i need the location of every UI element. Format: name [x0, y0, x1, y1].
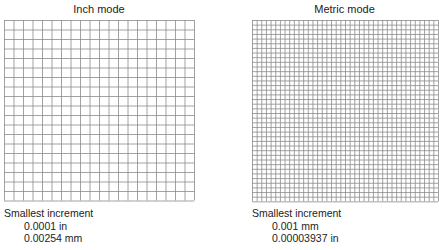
inch-mode-title: Inch mode	[4, 3, 194, 15]
metric-increment-block: Smallest increment 0.001 mm 0.00003937 i…	[252, 207, 341, 245]
inch-increment-in: 0.0001 in	[4, 220, 93, 233]
inch-increment-mm: 0.00254 mm	[4, 232, 93, 245]
inch-grid	[4, 20, 195, 202]
inch-increment-block: Smallest increment 0.0001 in 0.00254 mm	[4, 207, 93, 245]
metric-increment-in: 0.00003937 in	[252, 232, 341, 245]
metric-increment-mm: 0.001 mm	[252, 220, 341, 233]
metric-grid	[252, 20, 439, 203]
metric-increment-label: Smallest increment	[252, 207, 341, 220]
metric-mode-title: Metric mode	[252, 3, 437, 15]
inch-increment-label: Smallest increment	[4, 207, 93, 220]
